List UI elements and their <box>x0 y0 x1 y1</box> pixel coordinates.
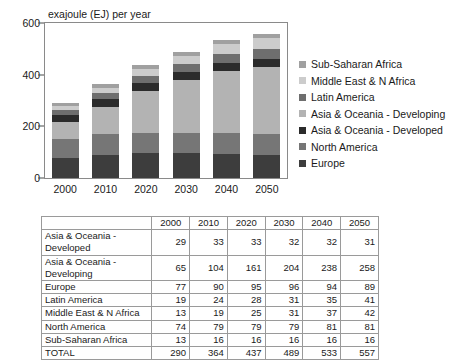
table-cell: 161 <box>227 255 265 280</box>
table-header-row: 200020102020203020402050 <box>42 217 379 230</box>
x-axis-tick-label: 2030 <box>164 183 208 195</box>
table-cell: 33 <box>227 230 265 255</box>
y-axis-tick-label: 400 <box>0 69 40 81</box>
legend-item-label: Europe <box>311 157 345 169</box>
table-corner-cell <box>42 217 152 230</box>
table-cell: 13 <box>152 307 190 320</box>
table-cell: 79 <box>190 320 228 333</box>
legend-item[interactable]: Europe <box>299 155 463 172</box>
table-row-label: Sub-Saharan Africa <box>42 333 152 346</box>
data-table-container: 200020102020203020402050 Asia & Oceania … <box>41 216 379 360</box>
bar-column[interactable] <box>213 40 240 178</box>
table-cell: 42 <box>341 307 379 320</box>
bar-segment <box>173 72 200 80</box>
bar-segment <box>132 76 159 83</box>
table-total-cell: 290 <box>152 347 190 360</box>
x-axis-tick-label: 2050 <box>245 183 289 195</box>
bar-segment <box>213 63 240 71</box>
legend-item-label: Asia & Oceania - Developed <box>311 124 443 136</box>
legend-item[interactable]: Middle East & N Africa <box>299 73 463 90</box>
table-cell: 31 <box>265 294 303 307</box>
legend-swatch-icon <box>299 77 306 84</box>
legend-item-label: Asia & Oceania - Developing <box>311 108 445 120</box>
table-row: Asia & Oceania - Developing6510416120423… <box>42 255 379 280</box>
legend-swatch-icon <box>299 160 306 167</box>
legend-item-label: North America <box>311 141 378 153</box>
bar-segment <box>92 107 119 134</box>
bars-container <box>45 23 287 178</box>
table-total-cell: 437 <box>227 347 265 360</box>
table-total-cell: 533 <box>303 347 341 360</box>
table-column-header: 2030 <box>265 217 303 230</box>
table-column-header: 2010 <box>190 217 228 230</box>
bar-segment <box>213 44 240 54</box>
x-axis-tick-label: 2010 <box>84 183 128 195</box>
table-cell: 19 <box>152 294 190 307</box>
legend-swatch-icon <box>299 110 306 117</box>
bar-segment <box>253 38 280 49</box>
table-cell: 31 <box>265 307 303 320</box>
table-column-header: 2020 <box>227 217 265 230</box>
bar-column[interactable] <box>253 34 280 178</box>
y-axis: 0200400600 <box>0 22 40 179</box>
legend-swatch-icon <box>299 94 306 101</box>
legend-swatch-icon <box>299 127 306 134</box>
y-axis-tick-label: 600 <box>0 17 40 29</box>
table-cell: 35 <box>303 294 341 307</box>
table-row-label: Asia & Oceania - Developed <box>42 230 152 255</box>
bar-segment <box>52 122 79 139</box>
bar-column[interactable] <box>132 65 159 178</box>
legend-item[interactable]: Asia & Oceania - Developed <box>299 122 463 139</box>
y-axis-tick-label: 200 <box>0 120 40 132</box>
bar-column[interactable] <box>173 52 200 178</box>
table-cell: 258 <box>341 255 379 280</box>
y-axis-tick-label: 0 <box>0 172 40 184</box>
bar-segment <box>173 64 200 72</box>
legend-item[interactable]: Sub-Saharan Africa <box>299 56 463 73</box>
table-total-cell: 489 <box>265 347 303 360</box>
data-table: 200020102020203020402050 Asia & Oceania … <box>41 216 379 360</box>
table-row-label: Asia & Oceania - Developing <box>42 255 152 280</box>
table-cell: 79 <box>227 320 265 333</box>
legend-swatch-icon <box>299 143 306 150</box>
table-cell: 32 <box>303 230 341 255</box>
table-cell: 16 <box>303 333 341 346</box>
chart-title: exajoule (EJ) per year <box>48 8 151 20</box>
table-column-header: 2050 <box>341 217 379 230</box>
bar-segment <box>213 71 240 132</box>
table-cell: 89 <box>341 281 379 294</box>
table-cell: 41 <box>341 294 379 307</box>
table-cell: 29 <box>152 230 190 255</box>
bar-column[interactable] <box>52 103 79 178</box>
table-total-row: TOTAL290364437489533557 <box>42 347 379 360</box>
bar-segment <box>253 134 280 155</box>
bar-segment <box>132 91 159 133</box>
table-total-cell: 557 <box>341 347 379 360</box>
legend-swatch-icon <box>299 61 306 68</box>
bar-segment <box>173 56 200 64</box>
table-cell: 81 <box>341 320 379 333</box>
chart-legend: Sub-Saharan AfricaMiddle East & N Africa… <box>299 56 463 172</box>
table-row-label: Middle East & N Africa <box>42 307 152 320</box>
bar-column[interactable] <box>92 84 119 178</box>
bar-segment <box>52 115 79 122</box>
table-cell: 31 <box>341 230 379 255</box>
table-cell: 79 <box>265 320 303 333</box>
legend-item-label: Latin America <box>311 91 375 103</box>
bar-segment <box>213 154 240 178</box>
table-row: Middle East & N Africa131925313742 <box>42 307 379 320</box>
bar-segment <box>132 83 159 92</box>
bar-segment <box>52 139 79 158</box>
legend-item[interactable]: Asia & Oceania - Developing <box>299 106 463 123</box>
table-column-header: 2000 <box>152 217 190 230</box>
legend-item[interactable]: Latin America <box>299 89 463 106</box>
legend-item[interactable]: North America <box>299 139 463 156</box>
table-cell: 33 <box>190 230 228 255</box>
table-row-label: Latin America <box>42 294 152 307</box>
table-total-label: TOTAL <box>42 347 152 360</box>
table-cell: 28 <box>227 294 265 307</box>
table-row: Europe779095969489 <box>42 281 379 294</box>
legend-item-label: Sub-Saharan Africa <box>311 58 402 70</box>
bar-segment <box>253 49 280 60</box>
x-axis-tick-label: 2000 <box>43 183 87 195</box>
